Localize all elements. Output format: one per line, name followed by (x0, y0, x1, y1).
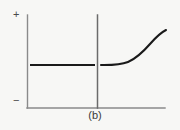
y-axis-positive-label: + (13, 9, 19, 20)
y-axis-negative-label: − (13, 95, 19, 106)
figure-caption: (b) (0, 110, 180, 121)
figure-container: + − (b) (0, 0, 180, 130)
